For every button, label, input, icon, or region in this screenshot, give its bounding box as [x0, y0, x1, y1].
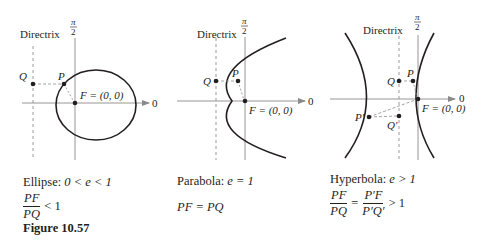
ellipse-ratio: PF PQ < 1 [23, 192, 65, 221]
hyperbola-pprime-qprime-segment [369, 116, 399, 117]
parabola-equation: PF = PQ [177, 201, 224, 214]
hyperbola-focus-label: F = (0, 0) [421, 102, 466, 115]
ellipse-fraction-numerator: PF [23, 192, 40, 207]
ellipse-caption-name: Ellipse: [23, 175, 61, 189]
hyperbola-ratio: PF PQ = P′F P′Q′ > 1 [330, 189, 409, 218]
ellipse-q-label: Q [19, 70, 27, 82]
hyperbola-fraction-2-numerator: P′F [363, 189, 383, 204]
hyperbola-caption-name: Hyperbola: [330, 172, 386, 186]
ellipse-pi-label: π [71, 17, 76, 27]
hyperbola-fraction-1-denominator: PQ [330, 204, 347, 218]
parabola-focus-point [243, 99, 248, 104]
hyperbola-fraction-1-numerator: PF [330, 189, 347, 204]
hyperbola-left-branch [345, 33, 367, 158]
hyperbola-p-label: P [406, 67, 414, 79]
hyperbola-focus-point [416, 97, 421, 102]
parabola-q-label: Q [203, 75, 211, 87]
hyperbola-fraction-2: P′F P′Q′ [362, 189, 384, 218]
hyperbola-pi-label: π [415, 12, 420, 22]
ellipse-focus-label: F = (0, 0) [79, 89, 124, 102]
hyperbola-caption: Hyperbola: e > 1 [330, 173, 416, 186]
parabola-curve [226, 38, 286, 158]
ellipse-caption: Ellipse: 0 < e < 1 [23, 176, 112, 189]
parabola-focus-label: F = (0, 0) [248, 104, 293, 117]
ellipse-fraction: PF PQ [23, 192, 40, 221]
parabola-point-p [236, 79, 241, 84]
parabola-caption: Parabola: e = 1 [177, 175, 254, 188]
parabola-caption-name: Parabola: [177, 174, 224, 188]
hyperbola-p-prime-label: P′ [354, 111, 365, 123]
hyperbola-pi-denominator: 2 [415, 22, 420, 32]
parabola-pi-denominator: 2 [242, 26, 247, 36]
hyperbola-point-q [397, 79, 402, 84]
hyperbola-directrix-label: Directrix [363, 24, 403, 36]
ellipse-point-p [62, 82, 67, 87]
ellipse-ratio-relation: < 1 [44, 199, 60, 214]
hyperbola-point-p-prime [367, 115, 372, 120]
parabola-panel: Directrix π 2 0 Q P F = (0, 0) [177, 16, 314, 160]
hyperbola-right-branch [416, 33, 434, 158]
hyperbola-fraction-2-denominator: P′Q′ [362, 204, 384, 218]
ellipse-caption-condition: 0 < e < 1 [64, 175, 111, 189]
ellipse-panel: Directrix π 2 0 Q P F = (0, 0) [19, 17, 158, 160]
hyperbola-q-prime-label: Q′ [387, 119, 398, 131]
parabola-caption-condition: e = 1 [227, 174, 253, 188]
parabola-point-q [214, 79, 219, 84]
hyperbola-caption-condition: e > 1 [389, 172, 415, 186]
parabola-equation-text: PF = PQ [177, 200, 224, 214]
ellipse-curve [56, 70, 136, 140]
parabola-zero-label: 0 [308, 95, 314, 107]
ellipse-p-label: P [57, 70, 65, 82]
hyperbola-q-label: Q [387, 75, 395, 87]
hyperbola-point-p [411, 79, 416, 84]
ellipse-pi-denominator: 2 [71, 27, 76, 37]
ellipse-fraction-denominator: PQ [23, 207, 40, 221]
hyperbola-ratio-relation: > 1 [388, 196, 404, 211]
ellipse-focus-point [73, 101, 78, 106]
parabola-p-label: P [231, 67, 239, 79]
hyperbola-fraction-1: PF PQ [330, 189, 347, 218]
ellipse-pf-segment [64, 84, 74, 102]
hyperbola-panel: Directrix π 2 0 Q P P′ Q′ F = (0, 0) [330, 12, 466, 160]
ellipse-point-q [31, 82, 36, 87]
hyperbola-ratio-equals: = [351, 196, 358, 211]
ellipse-zero-label: 0 [152, 97, 158, 109]
parabola-pf-segment [238, 81, 244, 100]
figure-label: Figure 10.57 [23, 221, 89, 236]
hyperbola-point-q-prime [397, 114, 402, 119]
parabola-directrix-label: Directrix [197, 28, 237, 40]
parabola-pi-label: π [242, 16, 247, 26]
hyperbola-pprime-f-segment [369, 99, 418, 117]
ellipse-directrix-label: Directrix [20, 28, 60, 40]
